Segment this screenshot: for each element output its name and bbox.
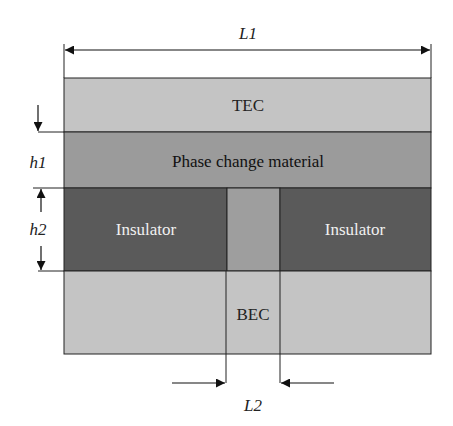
h2-label: h2 (30, 220, 48, 239)
h1-label: h1 (30, 153, 47, 172)
pcm-label: Phase change material (172, 152, 324, 171)
pcm-gap-block (227, 188, 280, 271)
insulator-left-label: Insulator (116, 220, 177, 239)
l2-label: L2 (243, 396, 262, 415)
h1-dimension (38, 105, 64, 132)
diagram-canvas: L1 TEC Phase change material Insulator I… (0, 0, 453, 426)
bec-label: BEC (236, 305, 269, 324)
l1-dimension (64, 44, 431, 78)
insulator-right-label: Insulator (325, 220, 386, 239)
l1-label: L1 (238, 24, 257, 43)
tec-label: TEC (232, 96, 264, 115)
